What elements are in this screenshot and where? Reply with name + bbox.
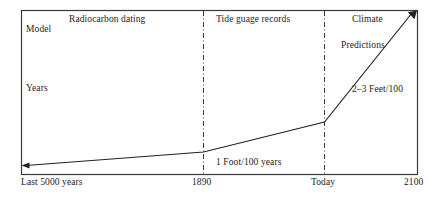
x-axis-label-today: Today [311, 178, 335, 188]
annotation-rate-future: 2–3 Feet/100 [352, 85, 403, 95]
sea-level-rise-figure: Radiocarbon dating Tide guage records Cl… [0, 0, 439, 198]
right-arrowhead [408, 11, 417, 20]
side-caption-years: Years [26, 84, 48, 94]
annotation-predictions: Predictions [341, 41, 385, 51]
x-axis-label-1890: 1890 [192, 178, 211, 188]
x-axis-label-start: Last 5000 years [21, 178, 83, 188]
section-header-tide-gauge: Tide guage records [216, 15, 290, 25]
left-arrowhead [22, 163, 30, 169]
x-axis-label-2100: 2100 [404, 178, 423, 188]
section-header-radiocarbon: Radiocarbon dating [69, 15, 145, 25]
section-header-climate: Climate [352, 15, 383, 25]
side-caption-model: Model [26, 25, 51, 35]
annotation-rate-past: 1 Foot/100 years [216, 158, 281, 168]
figure-canvas [0, 0, 439, 198]
